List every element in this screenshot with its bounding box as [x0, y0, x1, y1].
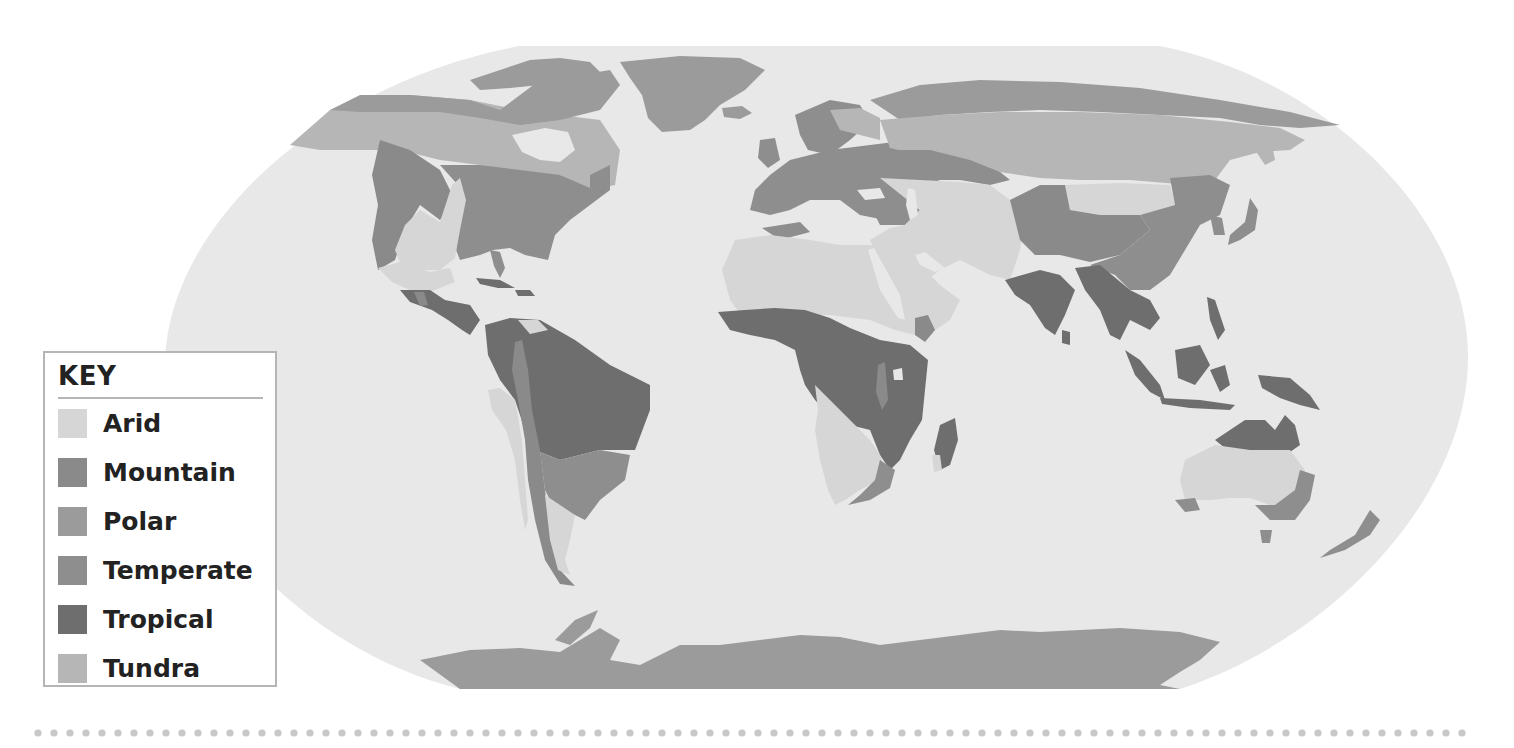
key-item-temperate: Temperate [58, 555, 253, 585]
swatch-tundra [58, 654, 87, 683]
key-label-tundra: Tundra [103, 654, 200, 683]
key-label-polar: Polar [103, 507, 176, 536]
dotted-divider [0, 727, 1514, 739]
key-label-temperate: Temperate [103, 556, 253, 585]
key-label-mountain: Mountain [103, 458, 236, 487]
region-sri-lanka-tropical [1062, 330, 1070, 345]
key-title: KEY [58, 361, 116, 391]
swatch-polar [58, 507, 87, 536]
key-item-polar: Polar [58, 506, 176, 536]
swatch-tropical [58, 605, 87, 634]
map-key: KEY Arid Mountain Polar Temperate Tropic… [43, 351, 277, 687]
key-item-tropical: Tropical [58, 604, 214, 634]
region-tasmania-temperate [1260, 530, 1272, 543]
key-item-tundra: Tundra [58, 653, 200, 683]
key-label-arid: Arid [103, 409, 161, 438]
swatch-arid [58, 409, 87, 438]
key-label-tropical: Tropical [103, 605, 214, 634]
lake-victoria [893, 368, 903, 380]
swatch-mountain [58, 458, 87, 487]
key-divider [58, 397, 263, 399]
swatch-temperate [58, 556, 87, 585]
key-item-arid: Arid [58, 408, 161, 438]
key-item-mountain: Mountain [58, 457, 236, 487]
